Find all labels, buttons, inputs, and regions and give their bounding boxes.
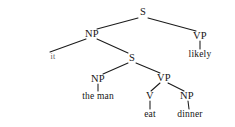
node-v-verb: V xyxy=(146,91,154,102)
edge-s-root-to-vp-matrix xyxy=(148,18,196,31)
edge-np-subject-to-s-embedded xyxy=(97,39,128,53)
leaf-dinner: dinner xyxy=(177,110,202,120)
node-s-embedded: S xyxy=(129,53,135,64)
leaf-likely: likely xyxy=(189,50,212,60)
leaf-it: it xyxy=(51,53,56,61)
edge-np-object-to-dinner xyxy=(188,101,189,109)
edge-s-embedded-to-np-embedded xyxy=(103,63,128,74)
node-np-subject: NP xyxy=(85,29,99,40)
tree-edge-layer xyxy=(0,0,235,127)
node-vp-embedded: VP xyxy=(157,73,171,84)
edge-s-root-to-np-subject xyxy=(97,18,138,29)
leaf-the-man: the man xyxy=(82,92,114,102)
node-s-root: S xyxy=(140,7,146,18)
leaf-eat: eat xyxy=(144,110,156,120)
node-vp-matrix: VP xyxy=(193,31,207,42)
node-np-embedded-subject: NP xyxy=(91,74,105,85)
edge-np-subject-to-it xyxy=(50,39,86,52)
node-np-object: NP xyxy=(180,91,194,102)
syntax-tree-figure: S NP VP it likely S NP VP the man V NP e… xyxy=(0,0,235,127)
